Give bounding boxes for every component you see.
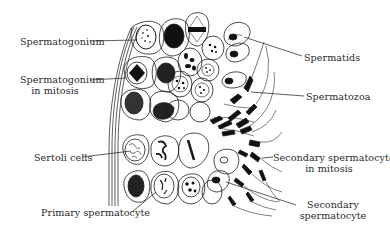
label-secondary-mitosis-line1: Secondary spermatocyte <box>273 152 385 163</box>
cell-row-1 <box>131 13 224 60</box>
label-secondary-spermatocyte: Secondary spermatocyte <box>298 199 368 221</box>
spermatogenesis-diagram: Spermatogonium Spermatogonium in mitosis… <box>0 0 390 232</box>
label-sertoli-cells: Sertoli cells <box>34 152 92 163</box>
secondary-spermatocytes <box>207 149 239 192</box>
label-spermatogonium-mitosis: Spermatogonium in mitosis <box>20 74 90 96</box>
cell-row-2 <box>124 48 219 92</box>
label-secondary-mitosis-line2: in mitosis <box>273 163 385 174</box>
label-spermatogonium-mitosis-line1: Spermatogonium <box>20 74 90 85</box>
label-secondary-line1: Secondary <box>298 199 368 210</box>
label-secondary-spermatocyte-mitosis: Secondary spermatocyte in mitosis <box>273 152 385 174</box>
label-spermatogonium-mitosis-line2: in mitosis <box>20 85 90 96</box>
spermatids-group <box>222 22 250 88</box>
cell-row-5 <box>124 171 222 204</box>
label-spermatids: Spermatids <box>304 52 360 63</box>
label-spermatogonium: Spermatogonium <box>20 36 105 47</box>
cell-row-4 <box>123 133 209 168</box>
label-primary-spermatocyte: Primary spermatocyte <box>41 207 150 218</box>
tubule-illustration <box>0 0 390 232</box>
label-spermatozoa: Spermatozoa <box>306 91 371 102</box>
label-secondary-line2: spermatocyte <box>298 210 368 221</box>
